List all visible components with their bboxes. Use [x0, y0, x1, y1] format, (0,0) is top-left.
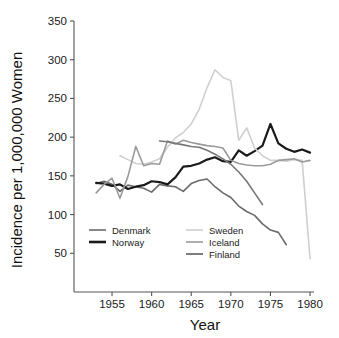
series-line-finland — [160, 141, 263, 205]
y-axis: 50100150200250300350 — [48, 15, 74, 292]
x-tick-label: 1975 — [258, 298, 284, 310]
legend-label-denmark: Denmark — [112, 225, 151, 236]
incidence-line-chart: 50100150200250300350 1955196019651970197… — [0, 0, 339, 338]
x-axis: 195519601965197019751980 — [74, 292, 323, 310]
x-axis-title: Year — [190, 316, 220, 333]
y-tick-label: 300 — [48, 54, 67, 66]
x-tick-label: 1960 — [139, 298, 165, 310]
chart-legend: DenmarkNorwaySwedenIcelandFinland — [89, 225, 243, 260]
y-tick-label: 200 — [48, 131, 67, 143]
y-tick-label: 100 — [48, 209, 67, 221]
y-tick-label: 350 — [48, 15, 67, 27]
y-tick-label: 150 — [48, 170, 67, 182]
legend-label-iceland: Iceland — [209, 237, 240, 248]
x-tick-label: 1955 — [99, 298, 125, 310]
y-tick-label: 50 — [54, 247, 67, 259]
x-tick-label: 1970 — [218, 298, 244, 310]
y-tick-label: 250 — [48, 92, 67, 104]
legend-label-finland: Finland — [209, 249, 240, 260]
chart-canvas: 50100150200250300350 1955196019651970197… — [0, 0, 339, 338]
x-tick-label: 1980 — [297, 298, 323, 310]
legend-label-norway: Norway — [112, 237, 144, 248]
y-axis-title: Incidence per 1,000,000 Women — [8, 52, 25, 269]
x-tick-label: 1965 — [178, 298, 204, 310]
legend-label-sweden: Sweden — [209, 225, 243, 236]
